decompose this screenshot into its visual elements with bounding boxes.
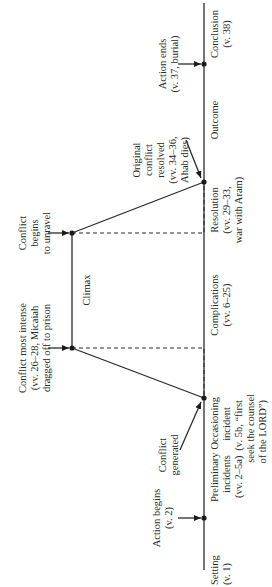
label-climax: Climax <box>81 274 92 306</box>
falling-action-line <box>72 182 204 233</box>
conflict-generated-arrow <box>180 402 201 450</box>
svg-text:Preliminary: Preliminary <box>209 452 220 502</box>
svg-text:seek the counsel: seek the counsel <box>245 394 256 463</box>
svg-text:incident: incident <box>221 407 232 441</box>
svg-text:Resolution: Resolution <box>209 187 220 233</box>
svg-text:dragged off to prison: dragged off to prison <box>41 303 52 392</box>
svg-text:(vv. 29–33,: (vv. 29–33, <box>221 186 233 233</box>
svg-text:Outcome: Outcome <box>209 100 220 139</box>
svg-text:Setting: Setting <box>209 554 220 585</box>
label-action-begins: Action begins (v. 2) <box>151 489 175 548</box>
svg-text:begins: begins <box>29 219 40 246</box>
svg-text:Conclusion: Conclusion <box>209 9 220 58</box>
svg-text:generated: generated <box>169 434 180 476</box>
svg-text:resolved: resolved <box>155 141 166 177</box>
climax-end-dot <box>69 230 74 235</box>
svg-text:Conflict: Conflict <box>157 438 168 472</box>
label-outcome: Outcome <box>209 100 220 139</box>
label-action-ends: Action ends (v. 37, burial) <box>157 35 181 93</box>
svg-text:(v. 2): (v. 2) <box>163 506 175 529</box>
svg-text:(vv. 6–25): (vv. 6–25) <box>221 283 233 327</box>
svg-text:(vv. 26–28, Micaiah: (vv. 26–28, Micaiah <box>29 305 41 390</box>
label-conclusion: Conclusion (v. 38) <box>209 9 233 58</box>
svg-text:(vv. 2–5a): (vv. 2–5a) <box>233 455 245 498</box>
occasioning-dot <box>201 395 206 400</box>
label-preliminary: Preliminary incidents (vv. 2–5a) <box>209 452 245 502</box>
svg-text:(v. 38): (v. 38) <box>221 20 233 48</box>
svg-text:(v. 1): (v. 1) <box>221 562 233 585</box>
label-complications: Complications (vv. 6–25) <box>209 274 233 335</box>
svg-text:Action begins: Action begins <box>151 489 162 548</box>
svg-text:Occasioning: Occasioning <box>209 396 220 449</box>
svg-text:Complications: Complications <box>209 274 220 335</box>
svg-text:Original: Original <box>131 142 142 177</box>
svg-text:Ahab dies): Ahab dies) <box>179 137 191 183</box>
plot-diagram: Setting (v. 1) Preliminary incidents (vv… <box>0 0 272 587</box>
svg-text:Conflict: Conflict <box>17 216 28 250</box>
action-ends-dot <box>201 61 206 66</box>
resolved-dot <box>201 179 206 184</box>
svg-text:of the LORD”): of the LORD”) <box>257 400 269 464</box>
action-begins-dot <box>201 515 206 520</box>
svg-text:Climax: Climax <box>81 274 92 306</box>
rising-action-line <box>72 348 204 398</box>
svg-text:war with Aram): war with Aram) <box>233 176 245 243</box>
climax-start-dot <box>69 345 74 350</box>
label-conflict-generated: Conflict generated <box>157 434 180 476</box>
label-setting: Setting (v. 1) <box>209 554 233 585</box>
svg-text:to unravel: to unravel <box>41 212 52 254</box>
svg-text:(v. 5b, “first: (v. 5b, “first <box>233 400 245 451</box>
label-original-resolved: Original conflict resolved (vv. 34–36, A… <box>131 136 191 183</box>
svg-text:(vv. 34–36,: (vv. 34–36, <box>167 136 179 183</box>
svg-text:Conflict most intense: Conflict most intense <box>17 303 28 393</box>
label-resolution: Resolution (vv. 29–33, war with Aram) <box>209 176 245 243</box>
svg-text:conflict: conflict <box>143 144 154 176</box>
label-conflict-unravel: Conflict begins to unravel <box>17 212 52 254</box>
svg-text:(v. 37, burial): (v. 37, burial) <box>169 35 181 93</box>
label-conflict-most-intense: Conflict most intense (vv. 26–28, Micaia… <box>17 303 52 393</box>
svg-text:Action ends: Action ends <box>157 39 168 89</box>
svg-text:incidents: incidents <box>221 455 232 493</box>
